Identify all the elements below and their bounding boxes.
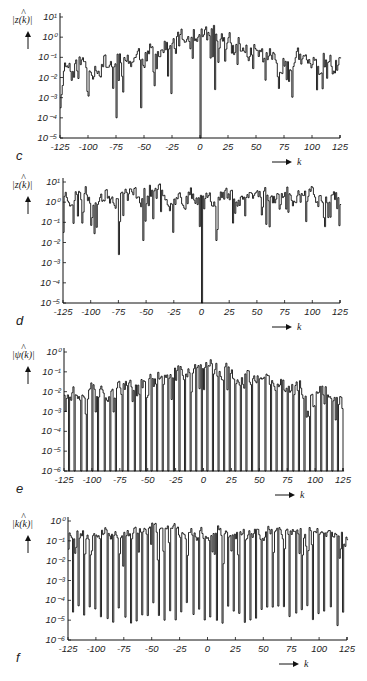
x-tick-label: 75 <box>282 474 293 485</box>
x-tick-label: 100 <box>304 306 321 317</box>
x-tick-label: -125 <box>50 141 70 152</box>
y-tick-label: 10⁻² <box>46 555 66 566</box>
x-tick-label: 100 <box>304 141 321 152</box>
x-axis-label: k <box>297 156 302 167</box>
y-tick-label: 10⁻¹ <box>38 51 57 62</box>
x-tick-label: -100 <box>86 643 106 654</box>
data-series-step-line <box>60 25 341 138</box>
y-tick-label: 10⁻¹ <box>46 535 65 546</box>
right-arrow-icon <box>272 159 292 165</box>
x-tick-label: 75 <box>279 306 290 317</box>
chart-panel-f: 10⁻⁶10⁻⁵10⁻⁴10⁻³10⁻²10⁻¹10⁰-125-100-75-5… <box>12 511 356 669</box>
x-tick-label: -50 <box>137 141 151 152</box>
x-tick-label: -125 <box>53 306 73 317</box>
x-tick-label: -25 <box>169 474 183 485</box>
x-tick-label: 50 <box>252 306 263 317</box>
x-tick-label: 50 <box>254 474 265 485</box>
x-tick-label: 125 <box>332 141 349 152</box>
x-tick-label: 100 <box>311 643 328 654</box>
chart-panel-d: 10⁻⁵10⁻⁴10⁻³10⁻²10⁻¹10⁰10¹-125-100-75-50… <box>12 172 349 332</box>
panel-label: c <box>16 148 23 163</box>
y-tick-label: 10⁰ <box>46 346 62 357</box>
y-tick-label: 10⁰ <box>50 515 66 526</box>
x-tick-label: -50 <box>145 643 159 654</box>
x-tick-label: 0 <box>201 474 207 485</box>
y-tick-label: 10⁻³ <box>38 92 58 103</box>
y-tick-label: 10⁰ <box>42 31 58 42</box>
x-tick-label: -25 <box>167 306 181 317</box>
up-arrow-icon <box>25 366 31 384</box>
chart-panel-e: 10⁻⁶10⁻⁵10⁻⁴10⁻³10⁻²10⁻¹10⁰-125-100-75-5… <box>12 342 352 500</box>
panel-label: e <box>16 481 23 496</box>
x-axis-label: k <box>297 321 302 332</box>
y-tick-label: 10⁰ <box>45 196 61 207</box>
x-tick-label: 25 <box>229 643 241 654</box>
y-tick-label: 10⁻¹ <box>42 366 61 377</box>
x-tick-label: -75 <box>112 306 126 317</box>
x-tick-label: 0 <box>197 141 203 152</box>
x-tick-label: 25 <box>225 474 237 485</box>
x-tick-label: -75 <box>117 643 131 654</box>
figure: 10⁻⁵10⁻⁴10⁻³10⁻²10⁻¹10⁰10¹-125-100-75-50… <box>0 0 367 681</box>
x-tick-label: -75 <box>109 141 123 152</box>
x-tick-label: -50 <box>139 306 153 317</box>
y-tick-label: 10⁻⁵ <box>45 614 65 625</box>
up-arrow-icon <box>25 31 31 49</box>
x-tick-label: -25 <box>173 643 187 654</box>
up-arrow-icon <box>25 196 31 214</box>
y-tick-label: 10⁻² <box>41 237 61 248</box>
y-tick-label: 10⁻³ <box>41 257 61 268</box>
x-tick-label: -75 <box>113 474 127 485</box>
x-tick-label: 50 <box>258 643 269 654</box>
y-tick-label: 10⁻⁴ <box>45 594 65 605</box>
y-tick-label: 10⁻⁴ <box>41 425 61 436</box>
x-tick-label: 75 <box>286 643 297 654</box>
x-tick-label: 0 <box>199 306 205 317</box>
data-series-step-line <box>64 360 344 471</box>
data-series-step-line <box>68 523 348 626</box>
axes: 10⁻⁵10⁻⁴10⁻³10⁻²10⁻¹10⁰10¹-125-100-75-50… <box>40 176 348 317</box>
x-tick-label: 125 <box>332 306 349 317</box>
y-tick-label: 10⁻⁴ <box>37 112 57 123</box>
x-tick-label: -125 <box>54 474 74 485</box>
x-tick-label: 100 <box>307 474 324 485</box>
x-tick-label: -100 <box>78 141 98 152</box>
y-tick-label: 10⁻² <box>38 72 58 83</box>
y-tick-label: 10⁻³ <box>42 406 62 417</box>
panel-label: d <box>16 313 24 328</box>
y-tick-label: 10⁻⁵ <box>41 445 61 456</box>
x-tick-label: 0 <box>205 643 211 654</box>
x-tick-label: 125 <box>335 474 352 485</box>
right-arrow-icon <box>275 492 295 498</box>
x-tick-label: -25 <box>165 141 179 152</box>
x-tick-label: 50 <box>251 141 262 152</box>
y-tick-label: 10⁻³ <box>46 575 66 586</box>
y-tick-label: 10⁻¹ <box>41 216 60 227</box>
y-tick-label: 10⁻² <box>42 386 62 397</box>
y-tick-label: 10¹ <box>43 11 57 22</box>
right-arrow-icon <box>279 661 299 667</box>
x-tick-label: -125 <box>58 643 78 654</box>
x-tick-label: -50 <box>141 474 155 485</box>
up-arrow-icon <box>25 535 31 553</box>
chart-panel-c: 10⁻⁵10⁻⁴10⁻³10⁻²10⁻¹10⁰10¹-125-100-75-50… <box>12 7 349 167</box>
x-tick-label: 25 <box>222 141 234 152</box>
y-tick-label: 10¹ <box>46 176 60 187</box>
x-axis-label: k <box>304 658 309 669</box>
x-axis-label: k <box>300 489 305 500</box>
x-tick-label: 75 <box>279 141 290 152</box>
y-tick-label: 10⁻⁴ <box>40 277 60 288</box>
x-tick-label: 125 <box>339 643 356 654</box>
right-arrow-icon <box>272 324 292 330</box>
panel-label: f <box>16 650 21 665</box>
x-tick-label: -100 <box>82 474 102 485</box>
x-tick-label: 25 <box>223 306 235 317</box>
x-tick-label: -100 <box>81 306 101 317</box>
data-series-step-line <box>63 184 341 303</box>
